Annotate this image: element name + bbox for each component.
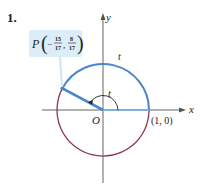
unit-point-label: (1, 0) [151, 115, 173, 127]
arc-label-t: t [118, 51, 121, 62]
x-sign: − [47, 39, 52, 49]
right-paren: ) [77, 32, 84, 55]
label-leader [60, 57, 62, 87]
x-axis-label: x [188, 103, 194, 115]
y-denominator: 17 [69, 45, 75, 51]
unit-circle-diagram: y x O (1, 0) t t P ( − 15 17 , 8 17 ) [0, 0, 209, 191]
x-denominator: 17 [55, 45, 61, 51]
x-numerator: 15 [55, 36, 61, 42]
angle-arc [90, 95, 118, 110]
y-axis-label: y [105, 11, 111, 23]
origin-label: O [92, 114, 100, 126]
y-axis-arrow-icon [101, 13, 106, 20]
angle-label-t: t [108, 88, 111, 99]
radius-to-P [62, 88, 103, 110]
comma: , [63, 40, 65, 50]
point-name: P [31, 37, 40, 51]
x-axis-arrow-icon [179, 108, 186, 113]
arc-t [62, 64, 149, 110]
y-numerator: 8 [70, 36, 73, 42]
